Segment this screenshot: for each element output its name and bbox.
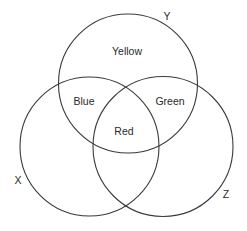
venn-diagram: Yellow Blue Green Red Y X Z xyxy=(0,0,247,231)
set-label-x: X xyxy=(14,174,21,186)
set-label-y: Y xyxy=(163,10,170,22)
set-label-z: Z xyxy=(223,188,230,200)
region-labels: Yellow Blue Green Red xyxy=(73,45,184,137)
region-label-green: Green xyxy=(155,95,184,107)
region-label-blue: Blue xyxy=(73,95,94,107)
set-labels: Y X Z xyxy=(14,10,229,200)
region-label-red: Red xyxy=(114,125,133,137)
region-label-yellow: Yellow xyxy=(112,45,142,57)
